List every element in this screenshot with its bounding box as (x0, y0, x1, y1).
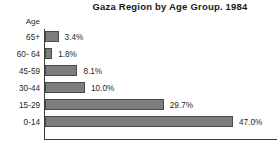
bar[interactable] (45, 48, 52, 59)
bar-value-label: 1.8% (58, 46, 77, 63)
chart-title: Gaza Region by Age Group. 1984 (70, 1, 270, 12)
category-label: 0-14 (0, 114, 40, 131)
bar-row: 0-14 47.0% (0, 114, 277, 131)
bar-track: 10.0% (45, 80, 277, 97)
bar-row: 30-44 10.0% (0, 80, 277, 97)
bar-row: 15-29 29.7% (0, 97, 277, 114)
bar-row: 45-59 8.1% (0, 63, 277, 80)
bar-row: 60- 64 1.8% (0, 46, 277, 63)
category-label: 15-29 (0, 97, 40, 114)
bar-track: 3.4% (45, 29, 277, 46)
bar[interactable] (45, 82, 85, 93)
category-axis-title: Age (0, 17, 40, 26)
plot-area: 65+ 3.4% 60- 64 1.8% 45-59 8.1% 30-44 (0, 29, 277, 139)
bar-value-label: 8.1% (83, 63, 102, 80)
bar-value-label: 29.7% (170, 97, 193, 114)
bar-track: 47.0% (45, 114, 277, 131)
bar-value-label: 10.0% (91, 80, 114, 97)
bar-track: 29.7% (45, 97, 277, 114)
category-label: 60- 64 (0, 46, 40, 63)
bar-track: 8.1% (45, 63, 277, 80)
bar-value-label: 3.4% (65, 29, 84, 46)
category-label: 65+ (0, 29, 40, 46)
category-label: 45-59 (0, 63, 40, 80)
bar[interactable] (45, 99, 164, 110)
bar-chart: Gaza Region by Age Group. 1984 Age 65+ 3… (0, 0, 277, 145)
category-label: 30-44 (0, 80, 40, 97)
bar[interactable] (45, 65, 77, 76)
bar-row: 65+ 3.4% (0, 29, 277, 46)
bar[interactable] (45, 31, 59, 42)
bar-value-label: 47.0% (239, 114, 262, 131)
bar-track: 1.8% (45, 46, 277, 63)
value-axis-line (44, 139, 277, 140)
category-axis-line (44, 29, 45, 140)
bar[interactable] (45, 116, 233, 127)
